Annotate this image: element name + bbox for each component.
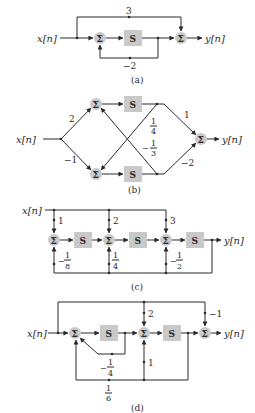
delay-block: S [74, 232, 92, 248]
input-label: x[n] [27, 328, 47, 339]
sum-node: Σ [90, 168, 102, 180]
output-label: y[n] [221, 134, 242, 145]
svg-text:Σ: Σ [178, 34, 184, 44]
gain-fraction: 1 4 [150, 117, 157, 136]
svg-text:S: S [135, 236, 142, 246]
input-label: x[n] [37, 33, 57, 44]
signal-flow-figure: x[n] 3 Σ S −2 Σ y[n] (a) x[n] [0, 0, 255, 413]
delay-block: S [124, 166, 142, 182]
gain-label: 1 [148, 358, 154, 368]
gain-fraction: − 1 2 [170, 251, 183, 271]
gain-fraction: − 1 4 [100, 358, 114, 378]
sum-node: Σ [90, 98, 102, 110]
gain-label: −1 [209, 309, 222, 319]
svg-text:S: S [192, 236, 199, 246]
svg-text:Σ: Σ [163, 236, 169, 246]
gain-label: −2 [123, 61, 136, 71]
svg-text:S: S [106, 329, 113, 339]
gain-label: −2 [181, 158, 194, 168]
gain-label: 2 [69, 114, 75, 124]
svg-text:S: S [169, 329, 176, 339]
gain-label: 1 [184, 110, 190, 120]
svg-text:2: 2 [177, 262, 182, 271]
svg-text:1: 1 [151, 117, 156, 126]
svg-text:Σ: Σ [97, 34, 103, 44]
delay-block: S [186, 232, 204, 248]
svg-text:−: − [142, 144, 149, 153]
sum-node: Σ [175, 32, 187, 44]
panel-b: x[n] 2 −1 Σ Σ S S 1 [16, 96, 242, 195]
svg-text:Σ: Σ [51, 236, 57, 246]
gain-label: 1 [58, 216, 64, 226]
sum-node: Σ [199, 327, 211, 339]
panel-c: x[n] 1 2 3 Σ S Σ S [22, 205, 244, 292]
svg-text:S: S [130, 170, 137, 180]
svg-text:−: − [58, 257, 65, 266]
delay-block: S [100, 325, 118, 341]
delay-block: S [129, 232, 147, 248]
caption: (d) [131, 403, 144, 413]
gain-label: 2 [148, 309, 154, 319]
output-label: y[n] [223, 328, 244, 339]
panel-d: x[n] 2 −1 Σ S − 1 4 [27, 301, 244, 413]
svg-text:S: S [130, 100, 137, 110]
svg-text:8: 8 [65, 262, 70, 271]
gain-label: 3 [170, 216, 176, 226]
gain-fraction: 1 4 [112, 251, 119, 271]
sum-node: Σ [195, 133, 207, 145]
sum-node: Σ [48, 234, 60, 246]
svg-text:−: − [170, 257, 177, 266]
svg-text:S: S [130, 34, 137, 44]
caption: (a) [131, 75, 143, 85]
svg-text:−: − [100, 364, 107, 373]
gain-label: 3 [126, 6, 132, 16]
caption: (c) [131, 282, 143, 292]
svg-text:Σ: Σ [72, 329, 78, 339]
sum-node: Σ [103, 234, 115, 246]
svg-text:4: 4 [108, 369, 113, 378]
svg-text:Σ: Σ [93, 100, 99, 110]
svg-text:4: 4 [151, 127, 156, 136]
gain-fraction: − 1 3 [142, 139, 157, 158]
sum-node: Σ [138, 327, 150, 339]
svg-text:Σ: Σ [198, 135, 204, 145]
input-label: x[n] [16, 134, 36, 145]
gain-label: 2 [113, 216, 119, 226]
output-label: y[n] [204, 33, 225, 44]
sum-node: Σ [69, 327, 81, 339]
delay-block: S [124, 30, 142, 46]
svg-text:4: 4 [113, 262, 118, 271]
gain-fraction: 1 6 [105, 384, 112, 403]
svg-text:1: 1 [151, 139, 156, 148]
delay-block: S [124, 96, 142, 112]
svg-text:1: 1 [113, 251, 118, 260]
gain-fraction: − 1 8 [58, 251, 71, 271]
svg-text:Σ: Σ [106, 236, 112, 246]
caption: (b) [128, 185, 141, 195]
panel-a: x[n] 3 Σ S −2 Σ y[n] (a) [37, 6, 225, 85]
svg-text:1: 1 [108, 358, 113, 367]
svg-text:S: S [80, 236, 87, 246]
svg-text:3: 3 [151, 149, 156, 158]
gain-label: −1 [64, 155, 77, 165]
output-label: y[n] [223, 235, 244, 246]
sum-node: Σ [160, 234, 172, 246]
svg-text:6: 6 [106, 394, 111, 403]
svg-text:Σ: Σ [202, 329, 208, 339]
svg-text:1: 1 [177, 251, 182, 260]
svg-text:Σ: Σ [93, 170, 99, 180]
svg-text:1: 1 [65, 251, 70, 260]
sum-node: Σ [94, 32, 106, 44]
svg-text:1: 1 [106, 384, 111, 393]
input-label: x[n] [22, 205, 42, 216]
svg-text:Σ: Σ [141, 329, 147, 339]
delay-block: S [163, 325, 181, 341]
